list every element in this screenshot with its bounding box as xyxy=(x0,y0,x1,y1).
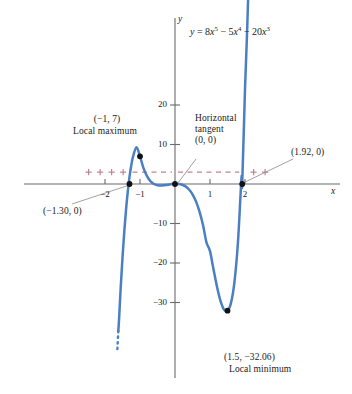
local-maximum-text-label: Local maximum xyxy=(50,126,160,137)
y-tick-label--10: −10 xyxy=(139,218,167,228)
plot-canvas xyxy=(0,0,352,394)
curve-continuation-bottom-dotted xyxy=(117,331,118,351)
zero-right-label: (1.92, 0) xyxy=(291,147,324,158)
function-graph-figure: y = 8x5 − 5x4 − 20x3 x y −2−1122010−10−2… xyxy=(0,0,352,394)
marked-point-local-minimum xyxy=(225,308,231,314)
leader-line-horizontal-tangent xyxy=(178,159,196,183)
x-tick-label--2: −2 xyxy=(93,189,117,199)
marked-points-group xyxy=(127,153,246,313)
x-tick-label--1: −1 xyxy=(128,189,152,199)
marked-point-zero xyxy=(127,181,133,187)
local-minimum-text-label: Local minimum xyxy=(229,364,291,375)
marked-point-zero xyxy=(239,181,245,187)
sign-chart-group xyxy=(86,169,269,175)
local-maximum-point-label: (−1, 7) xyxy=(68,114,146,125)
y-tick-label--20: −20 xyxy=(139,257,167,267)
y-axis-label: y xyxy=(178,14,182,24)
equation-label: y = 8x5 − 5x4 − 20x3 xyxy=(190,25,270,37)
y-tick-label--30: −30 xyxy=(139,297,167,307)
x-tick-label-2: 2 xyxy=(233,189,257,199)
zero-left-label: (−1.30, 0) xyxy=(43,206,82,217)
x-axis-label: x xyxy=(331,186,335,196)
y-tick-label-20: 20 xyxy=(139,99,167,109)
local-minimum-point-label: (1.5, −32.06) xyxy=(224,352,275,363)
sign-interval-0-positive xyxy=(86,169,127,175)
horizontal-tangent-point-label: (0, 0) xyxy=(195,135,216,146)
marked-point-horizontal-tangent xyxy=(172,181,178,187)
y-tick-label-10: 10 xyxy=(139,139,167,149)
marked-point-local-maximum xyxy=(137,153,143,159)
function-curve xyxy=(118,0,248,331)
x-tick-label-1: 1 xyxy=(198,189,222,199)
leader-line-zero-right xyxy=(243,159,293,183)
horizontal-tangent-line2: tangent xyxy=(195,124,224,135)
horizontal-tangent-line1: Horizontal xyxy=(195,113,237,124)
axes-group xyxy=(24,18,340,378)
